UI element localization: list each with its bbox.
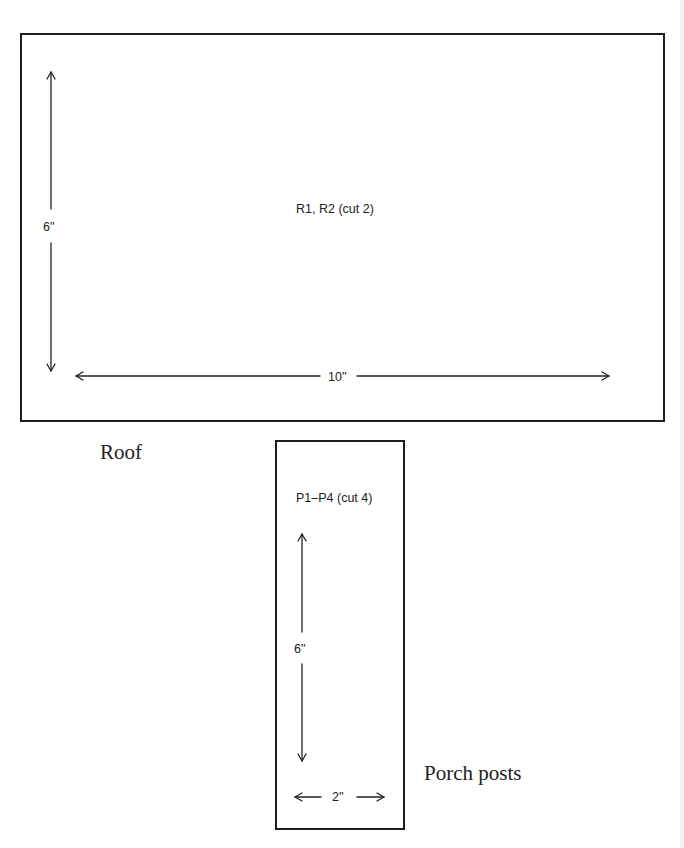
porch-post-piece-label: P1–P4 (cut 4) <box>296 491 372 505</box>
roof-height-label: 6'' <box>43 220 55 234</box>
roof-width-label: 10'' <box>328 370 347 384</box>
porch-posts-caption: Porch posts <box>424 761 521 785</box>
dimension-arrows <box>0 0 684 848</box>
roof-caption: Roof <box>100 440 142 464</box>
post-width-label: 2'' <box>332 790 344 804</box>
post-height-label: 6'' <box>294 642 306 656</box>
roof-piece-label: R1, R2 (cut 2) <box>296 202 374 216</box>
